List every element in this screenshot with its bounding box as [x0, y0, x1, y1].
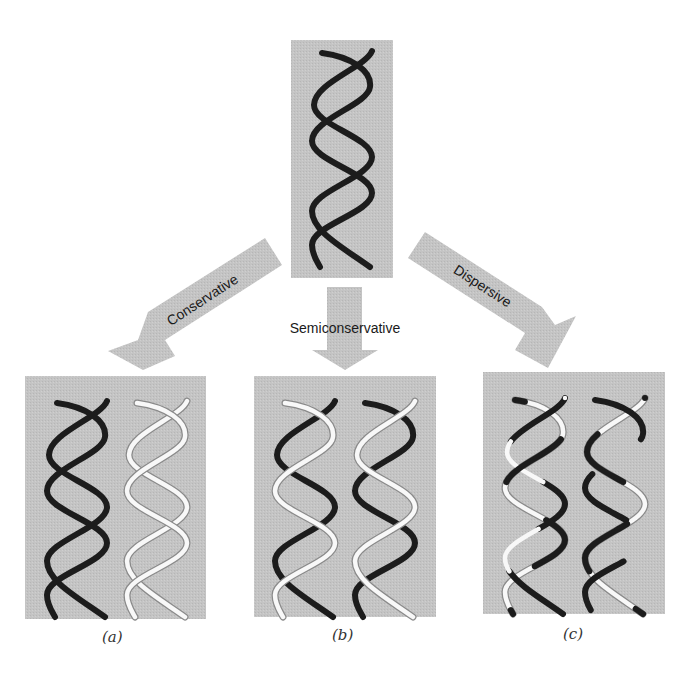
semiconservative-arrow: Semiconservative: [290, 287, 401, 370]
dna-replication-diagram: Conservative Semiconservative Dispersive: [0, 0, 700, 677]
panel-c: [483, 372, 665, 614]
conservative-arrow: Conservative: [108, 238, 282, 370]
semiconservative-arrow-label: Semiconservative: [290, 320, 401, 336]
panel-a: [25, 376, 206, 619]
panel-b-label: (b): [332, 626, 353, 644]
panel-b: [254, 376, 436, 617]
dispersive-arrow: Dispersive: [408, 232, 576, 368]
parent-panel: [291, 40, 393, 278]
panel-a-label: (a): [102, 628, 123, 646]
panel-c-label: (c): [563, 625, 583, 643]
